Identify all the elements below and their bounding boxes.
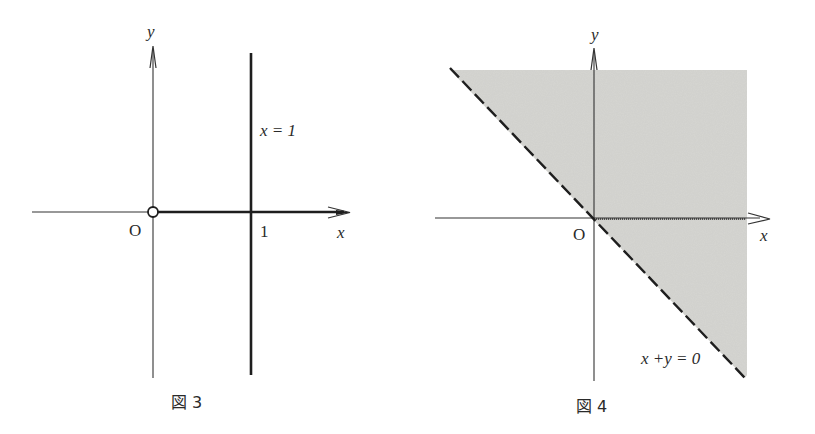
fig4-y-label: y: [589, 25, 599, 44]
figure-canvas: y x O 1 x = 1 図 3 y x O x +y = 0 図 4: [0, 0, 815, 434]
fig3-caption: 図 3: [171, 393, 202, 412]
fig4-caption: 図 4: [576, 397, 607, 416]
fig3-line-label: x = 1: [259, 121, 296, 140]
figure-4: y x O x +y = 0 図 4: [435, 25, 770, 416]
fig3-tick-label: 1: [260, 222, 269, 241]
fig3-origin-label: O: [129, 221, 141, 240]
figure-3: y x O 1 x = 1 図 3: [32, 22, 350, 412]
fig3-open-circle-icon: [148, 207, 158, 217]
fig4-x-label: x: [759, 226, 768, 245]
fig3-y-label: y: [145, 22, 155, 41]
fig3-x-label: x: [336, 223, 345, 242]
fig4-line-label: x +y = 0: [640, 349, 701, 368]
fig4-origin-label: O: [573, 225, 585, 244]
